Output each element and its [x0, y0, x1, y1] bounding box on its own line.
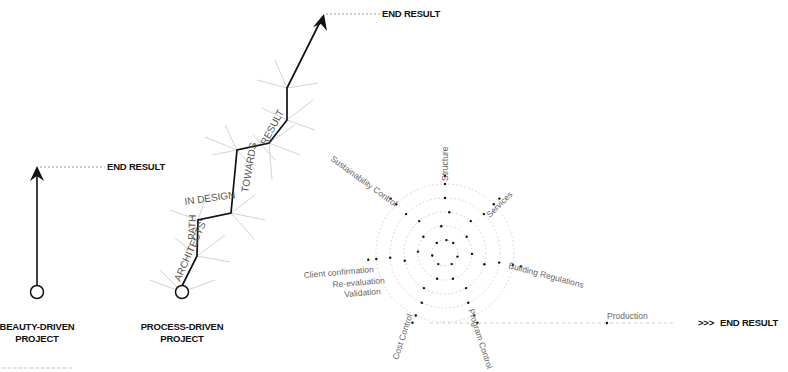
radial-dot: [448, 211, 450, 213]
diagram-canvas: END RESULT BEAUTY-DRIVEN PROJECT: [0, 0, 788, 372]
radial-dot: [471, 253, 473, 255]
radial-dot: [452, 242, 454, 244]
beauty-end-result-label: END RESULT: [107, 161, 165, 172]
axis-label-structure: Structure: [440, 146, 450, 181]
radial-dot: [389, 257, 391, 259]
beauty-label-line2: PROJECT: [15, 333, 59, 344]
radial-dot: [367, 259, 369, 261]
radial-dot: [456, 255, 458, 257]
axis-label-program-control: Program Control: [466, 308, 495, 370]
radial-end-result-label: END RESULT: [720, 317, 778, 328]
radial-dot: [431, 254, 433, 256]
radial-dot: [437, 263, 439, 265]
radial-dot: [470, 220, 472, 222]
radial-dot: [436, 278, 438, 280]
axis-label-sustainability-control: Sustainability Control: [329, 154, 400, 209]
radial-dot: [375, 258, 377, 260]
axis-label-services: Services: [484, 189, 514, 219]
radial-dot: [498, 261, 500, 263]
process-label-line1: PROCESS-DRIVEN: [141, 321, 224, 332]
path-word-path: PATH: [186, 215, 198, 241]
radial-dot: [418, 220, 420, 222]
radial-dot: [436, 242, 438, 244]
radial-dot: [451, 263, 453, 265]
radial-dot: [440, 225, 442, 227]
radial-diagram: Production >>> END RESULT Structure Serv…: [303, 146, 778, 370]
beauty-start-circle: [31, 286, 44, 299]
process-start-circle: [176, 286, 189, 299]
axis-label-cost-control: Cost Control: [390, 312, 414, 360]
beauty-driven-diagram: END RESULT BEAUTY-DRIVEN PROJECT: [0, 161, 165, 344]
process-arrow-head-icon: [313, 14, 327, 31]
process-end-result-label: END RESULT: [382, 8, 440, 19]
production-label: Production: [607, 311, 648, 321]
radial-dot: [465, 287, 467, 289]
radial-end-prefix: >>>: [698, 317, 715, 328]
radial-dot: [404, 260, 406, 262]
radial-dot: [445, 239, 447, 241]
radial-ring: [404, 212, 486, 294]
radial-dot: [422, 236, 424, 238]
beauty-label-line1: BEAUTY-DRIVEN: [0, 321, 75, 332]
radial-dot: [452, 278, 454, 280]
radial-dot: [415, 314, 417, 316]
process-label-line2: PROJECT: [160, 333, 204, 344]
production-dot: [606, 322, 608, 324]
path-word-in-design: IN DESIGN: [184, 189, 236, 207]
radial-dot: [465, 236, 467, 238]
radial-dot: [483, 263, 485, 265]
radial-dot: [423, 287, 425, 289]
radial-dot: [444, 197, 446, 199]
radial-dot: [417, 250, 419, 252]
process-driven-diagram: END RESULT ARCHITECTS' PATH IN DESIGN TO…: [141, 8, 441, 344]
radial-dot: [444, 183, 446, 185]
radial-dot: [421, 302, 423, 304]
radial-dot: [467, 302, 469, 304]
axis-label-building-regulations: Building Regulations: [507, 260, 584, 290]
radial-dot: [405, 213, 407, 215]
radial-ring: [418, 226, 472, 280]
radial-ring: [432, 240, 458, 266]
